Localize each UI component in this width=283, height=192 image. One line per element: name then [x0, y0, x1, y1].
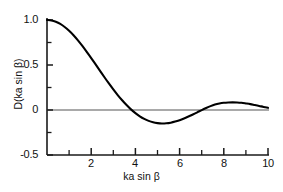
x-tick-label-4: 4 — [123, 157, 147, 169]
x-axis-major-ticks — [91, 148, 268, 155]
x-tick-label-6: 6 — [168, 157, 192, 169]
x-axis-title: ka sin β — [0, 170, 283, 182]
y-axis-title: D(ka sin β) — [12, 24, 24, 144]
figure-diffraction-directivity: 1.0 0.5 0 -0.5 2 4 6 8 10 ka sin β D(ka … — [0, 0, 283, 192]
y-tick-label-minus0.5: -0.5 — [0, 148, 38, 160]
x-tick-label-10: 10 — [256, 157, 280, 169]
x-tick-label-8: 8 — [212, 157, 236, 169]
x-tick-label-2: 2 — [79, 157, 103, 169]
data-curve — [47, 20, 268, 124]
